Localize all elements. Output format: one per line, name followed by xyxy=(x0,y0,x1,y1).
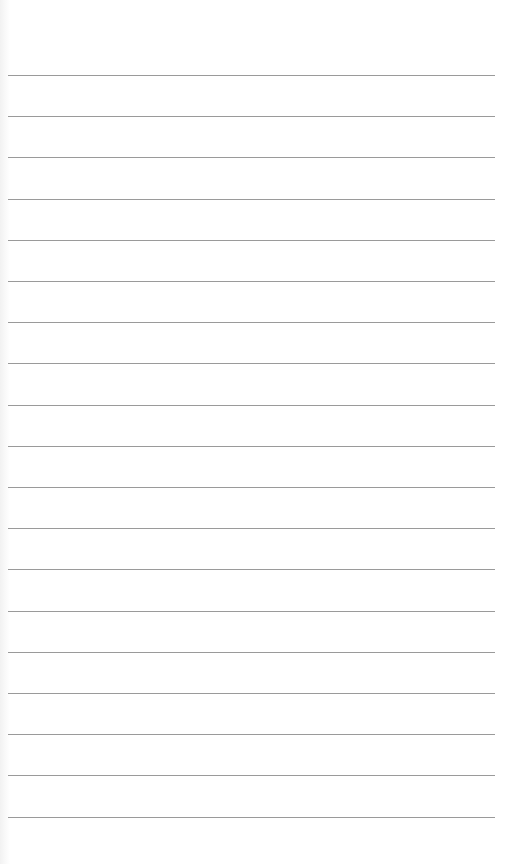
ruled-line xyxy=(8,405,495,406)
ruled-line xyxy=(8,487,495,488)
ruled-line xyxy=(8,652,495,653)
ruled-line xyxy=(8,817,495,818)
ruled-line xyxy=(8,693,495,694)
ruled-line xyxy=(8,240,495,241)
ruled-line xyxy=(8,611,495,612)
ruled-line xyxy=(8,322,495,323)
ruled-line xyxy=(8,75,495,76)
ruled-line xyxy=(8,528,495,529)
ruled-line xyxy=(8,734,495,735)
ruled-line xyxy=(8,775,495,776)
ruled-line xyxy=(8,569,495,570)
ruled-line xyxy=(8,116,495,117)
ruled-line xyxy=(8,281,495,282)
ruled-line xyxy=(8,363,495,364)
ruled-line xyxy=(8,157,495,158)
ruled-line xyxy=(8,199,495,200)
ruled-line xyxy=(8,446,495,447)
